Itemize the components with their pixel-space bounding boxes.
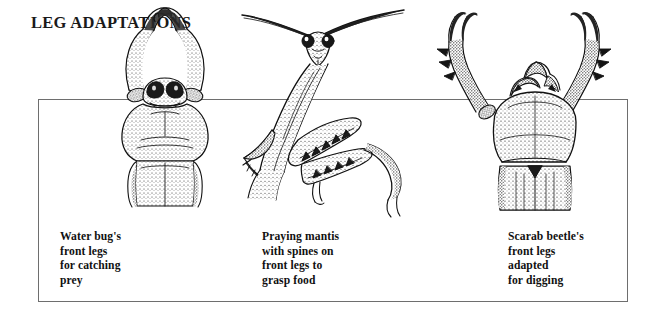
caption-praying-mantis: Praying mantis with spines on front legs…: [262, 230, 339, 288]
scarab-beetle-illustration: [432, 0, 642, 220]
caption-scarab-beetle: Scarab beetle's front legs adapted for d…: [508, 230, 584, 288]
caption-water-bug: Water bug's front legs for catching prey: [60, 230, 121, 288]
praying-mantis-illustration: [228, 0, 458, 220]
leg-adaptations-figure: LEG ADAPTATIONS: [0, 0, 655, 316]
